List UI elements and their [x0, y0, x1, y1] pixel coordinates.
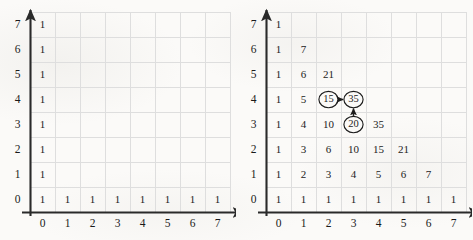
x-axis-label-1: 1: [291, 218, 316, 230]
cell-value-x0-y0: 1: [30, 194, 55, 205]
cell-value-x4-y0: 1: [130, 194, 155, 205]
y-axis-label-6: 6: [10, 44, 25, 56]
y-axis-label-4: 4: [10, 94, 25, 106]
x-axis-label-3: 3: [341, 218, 366, 230]
cell-value-x0-y7: 1: [266, 19, 291, 30]
x-axis-label-3: 3: [105, 218, 130, 230]
y-axis-label-1: 1: [10, 169, 25, 181]
cell-value-x1-y3: 4: [291, 119, 316, 130]
x-axis-label-4: 4: [366, 218, 391, 230]
x-axis-label-2: 2: [316, 218, 341, 230]
cell-value-x2-y1: 3: [316, 169, 341, 180]
cell-value-x0-y4: 1: [266, 94, 291, 105]
cell-value-x0-y5: 1: [266, 69, 291, 80]
cell-value-x1-y0: 1: [55, 194, 80, 205]
cell-value-x0-y4: 1: [30, 94, 55, 105]
cell-value-x7-y0: 1: [205, 194, 230, 205]
y-axis-label-7: 7: [246, 19, 261, 31]
cell-value-x6-y0: 1: [180, 194, 205, 205]
cell-value-x3-y4: 35: [341, 94, 366, 105]
x-axis-label-0: 0: [30, 218, 55, 230]
cell-value-x2-y0: 1: [80, 194, 105, 205]
y-axis-label-0: 0: [246, 194, 261, 206]
x-axis-label-7: 7: [205, 218, 230, 230]
cell-value-x0-y3: 1: [266, 119, 291, 130]
cell-value-x5-y0: 1: [155, 194, 180, 205]
cell-value-x3-y1: 4: [341, 169, 366, 180]
cell-value-x0-y5: 1: [30, 69, 55, 80]
cell-value-x0-y6: 1: [266, 44, 291, 55]
y-axis-label-2: 2: [246, 144, 261, 156]
cell-value-x6-y0: 1: [416, 194, 441, 205]
x-axis-label-5: 5: [155, 218, 180, 230]
cell-value-x4-y2: 15: [366, 144, 391, 155]
cell-value-x1-y4: 5: [291, 94, 316, 105]
cell-value-x1-y6: 7: [291, 44, 316, 55]
cell-value-x5-y1: 6: [391, 169, 416, 180]
y-axis-label-1: 1: [246, 169, 261, 181]
gridlines: [30, 12, 231, 213]
cell-value-x3-y2: 10: [341, 144, 366, 155]
cell-value-x2-y2: 6: [316, 144, 341, 155]
panel-empty-grid: 1111111111111110123456701234567: [0, 0, 236, 240]
y-axis-label-0: 0: [10, 194, 25, 206]
cell-value-x0-y2: 1: [266, 144, 291, 155]
cell-value-x1-y5: 6: [291, 69, 316, 80]
cell-value-x2-y4: 15: [316, 94, 341, 105]
y-axis-label-5: 5: [10, 69, 25, 81]
cell-value-x1-y0: 1: [291, 194, 316, 205]
cell-value-x3-y3: 20: [341, 119, 366, 130]
y-axis-label-7: 7: [10, 19, 25, 31]
y-axis-label-5: 5: [246, 69, 261, 81]
cell-value-x2-y5: 21: [316, 69, 341, 80]
x-axis-label-4: 4: [130, 218, 155, 230]
cell-value-x1-y2: 3: [291, 144, 316, 155]
cell-value-x3-y0: 1: [105, 194, 130, 205]
cell-value-x6-y1: 7: [416, 169, 441, 180]
x-axis-label-2: 2: [80, 218, 105, 230]
cell-value-x1-y1: 2: [291, 169, 316, 180]
cell-value-x0-y1: 1: [266, 169, 291, 180]
x-axis-label-5: 5: [391, 218, 416, 230]
x-axis-label-1: 1: [55, 218, 80, 230]
cell-value-x0-y7: 1: [30, 19, 55, 30]
cell-value-x2-y3: 10: [316, 119, 341, 130]
cell-value-x5-y0: 1: [391, 194, 416, 205]
y-axis-label-3: 3: [10, 119, 25, 131]
gridlines: [266, 12, 467, 213]
cell-value-x0-y0: 1: [266, 194, 291, 205]
x-axis-label-6: 6: [180, 218, 205, 230]
cell-value-x2-y0: 1: [316, 194, 341, 205]
y-axis-label-4: 4: [246, 94, 261, 106]
cell-value-x5-y2: 21: [391, 144, 416, 155]
y-axis-label-6: 6: [246, 44, 261, 56]
y-axis-label-3: 3: [246, 119, 261, 131]
panel-filled-grid: 1111111112345671361015211410203515153516…: [236, 0, 472, 240]
cell-value-x4-y3: 35: [366, 119, 391, 130]
cell-value-x3-y0: 1: [341, 194, 366, 205]
cell-value-x4-y0: 1: [366, 194, 391, 205]
cell-value-x0-y1: 1: [30, 169, 55, 180]
cell-value-x0-y3: 1: [30, 119, 55, 130]
cell-value-x7-y0: 1: [441, 194, 466, 205]
cell-value-x0-y2: 1: [30, 144, 55, 155]
cell-value-x0-y6: 1: [30, 44, 55, 55]
x-axis-label-6: 6: [416, 218, 441, 230]
x-axis-label-0: 0: [266, 218, 291, 230]
x-axis-label-7: 7: [441, 218, 466, 230]
y-axis-label-2: 2: [10, 144, 25, 156]
cell-value-x4-y1: 5: [366, 169, 391, 180]
